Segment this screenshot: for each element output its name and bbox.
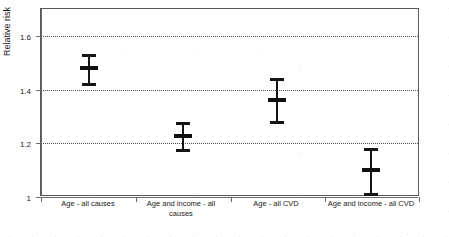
x-category-label-3: Age and income - all CVD bbox=[322, 199, 420, 209]
x-axis-baseline bbox=[41, 197, 418, 198]
point-estimate-marker bbox=[174, 134, 192, 138]
y-tick-label-1-4: 1.4 bbox=[20, 87, 31, 96]
x-category-label-1: Age and income - all causes bbox=[136, 199, 226, 218]
x-category-label-0: Age - all causes bbox=[41, 199, 135, 209]
y-tick-label-1-6: 1.6 bbox=[20, 33, 31, 42]
chart-figure: Relative risk 1.6 1.4 1.2 1 bbox=[0, 0, 449, 237]
error-bar-cap-lower bbox=[270, 121, 284, 124]
y-tick-1-2: 1.2 bbox=[36, 143, 42, 144]
gridline-1-2 bbox=[41, 143, 418, 144]
error-bar-cap-lower bbox=[82, 83, 96, 86]
gridline-1-4 bbox=[41, 90, 418, 91]
point-estimate-marker bbox=[268, 98, 286, 102]
gridline-1-6 bbox=[41, 36, 418, 37]
error-bar-cap-upper bbox=[82, 54, 96, 57]
y-tick-1-4: 1.4 bbox=[36, 90, 42, 91]
y-tick-label-1-0: 1 bbox=[27, 194, 31, 203]
error-bar-cap-lower bbox=[176, 149, 190, 152]
error-bar-cap-upper bbox=[364, 148, 378, 151]
error-bar-cap-lower bbox=[364, 193, 378, 196]
point-estimate-marker bbox=[80, 66, 98, 70]
plot-area: 1.6 1.4 1.2 1 bbox=[40, 8, 419, 196]
error-bar-cap-upper bbox=[270, 78, 284, 81]
y-tick-1-6: 1.6 bbox=[36, 36, 42, 37]
y-tick-label-1-2: 1.2 bbox=[20, 140, 31, 149]
y-axis-title: Relative risk bbox=[2, 0, 12, 56]
error-bar-cap-upper bbox=[176, 122, 190, 125]
point-estimate-marker bbox=[362, 168, 380, 172]
x-category-label-2: Age - all CVD bbox=[230, 199, 322, 209]
